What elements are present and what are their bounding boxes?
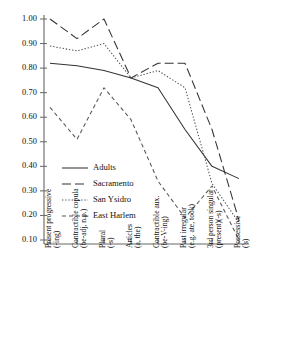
x-tick-label: 3rd person singular(present)(-s): [207, 189, 224, 248]
series-line-adults: [50, 63, 239, 178]
y-tick-label: 0.60: [3, 112, 37, 121]
y-tick-label: 0.10: [3, 235, 37, 244]
x-tick-label-line2: (be-adj, n.p.): [80, 188, 88, 248]
x-tick-label-line2: (-ing): [53, 189, 61, 248]
x-tick-label-line2: (be-V-ing): [161, 196, 169, 248]
y-tick-label: 0.70: [3, 88, 37, 97]
x-tick-label: Articles(a, the): [126, 224, 143, 248]
x-tick-label: Present progressive(-ing): [45, 189, 62, 248]
legend-label-sacramento: Sacramento: [93, 178, 134, 188]
y-tick-label: 0.80: [3, 63, 37, 72]
x-tick-label-line2: (a, the): [134, 224, 142, 248]
y-tick-label: 0.90: [3, 39, 37, 48]
x-tick-label-line2: ('s): [242, 216, 250, 249]
x-tick-label: Contractible aux.(be-V-ing): [153, 196, 170, 248]
x-tick-label-line2: (e.g. ate, took): [188, 204, 196, 248]
legend-label-adults: Adults: [93, 162, 116, 172]
x-tick-label: Possessive('s): [234, 216, 251, 249]
x-tick-label-line2: (present)(-s): [215, 189, 223, 248]
legend-label-east-harlem: East Harlem: [93, 210, 136, 220]
x-tick-label-line2: (-s): [107, 230, 115, 248]
legend-label-san-ysidro: San Ysidro: [93, 194, 131, 204]
chart-figure: 1.000.900.800.700.600.500.400.300.200.10…: [0, 0, 292, 345]
y-tick-label: 0.30: [3, 186, 37, 195]
y-tick-label: 0.40: [3, 161, 37, 170]
x-tick-label: Past irregular(e.g. ate, took): [180, 204, 197, 248]
chart-canvas: [0, 0, 292, 345]
x-tick-label: Contractible copula(be-adj, n.p.): [72, 188, 89, 248]
y-tick-label: 1.00: [3, 14, 37, 23]
x-tick-label: Plural(-s): [99, 230, 116, 248]
y-tick-label: 0.20: [3, 210, 37, 219]
y-tick-label: 0.50: [3, 137, 37, 146]
